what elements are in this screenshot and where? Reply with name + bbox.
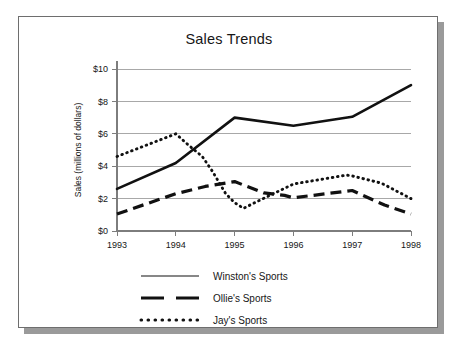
chart-card: Sales Trends $0$2$4$6$8$10 1993199419951… [18,16,438,328]
legend-item-jays-sports: Jay's Sports [139,309,399,331]
svg-text:1993: 1993 [107,240,127,250]
svg-text:$2: $2 [98,194,108,204]
legend-item-winstons-sports: Winston's Sports [139,265,399,287]
legend-item-ollies-sports: Ollie's Sports [139,287,399,309]
svg-text:$4: $4 [98,161,108,171]
screenshot-canvas: Sales Trends $0$2$4$6$8$10 1993199419951… [0,0,461,350]
svg-text:1995: 1995 [225,240,245,250]
y-tick-labels: $0$2$4$6$8$10 [93,64,108,236]
svg-text:$0: $0 [98,226,108,236]
solid-line-key-icon [139,268,201,284]
dotted-line-key-icon [139,312,201,328]
y-axis-ticks [112,69,117,231]
legend-label-ollies-sports: Ollie's Sports [213,293,272,304]
svg-text:1996: 1996 [283,240,303,250]
series-line-winstons-sports [117,85,411,189]
svg-text:$8: $8 [98,97,108,107]
legend-label-jays-sports: Jay's Sports [213,315,267,326]
legend-label-winstons-sports: Winston's Sports [213,271,288,282]
svg-text:$6: $6 [98,129,108,139]
svg-text:1994: 1994 [166,240,186,250]
x-tick-labels: 199319941995199619971998 [107,240,421,250]
chart-legend: Winston's Sports Ollie's Sports Jay's Sp… [139,265,399,331]
svg-text:1997: 1997 [342,240,362,250]
svg-text:$10: $10 [93,64,108,74]
y-axis-title: Sales (millions of dollars) [73,103,83,198]
dashed-line-key-icon [139,290,201,306]
svg-text:1998: 1998 [401,240,421,250]
x-axis-ticks [117,231,411,236]
